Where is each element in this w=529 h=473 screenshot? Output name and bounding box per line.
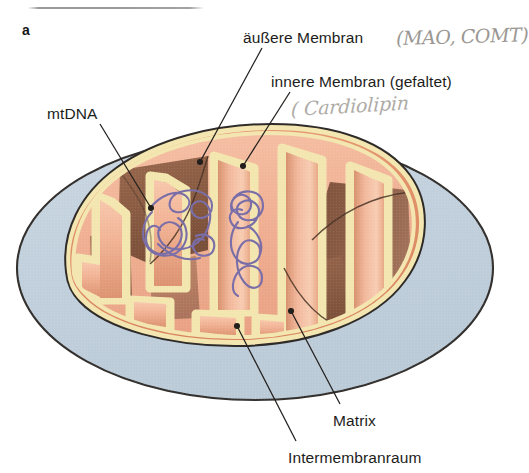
label-mtdna: mtDNA: [47, 105, 97, 123]
label-intermembrane-space: Intermembranraum: [288, 449, 421, 467]
label-inner-membrane: innere Membran (gefaltet): [271, 73, 452, 91]
handwritten-note-mao-comt: (MAO, COMT): [396, 23, 529, 49]
label-matrix: Matrix: [333, 412, 376, 430]
label-outer-membrane: äußere Membran: [243, 29, 363, 47]
